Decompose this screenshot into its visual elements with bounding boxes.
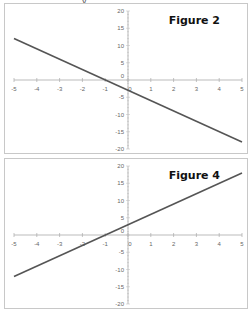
x-tick-label: 4 <box>218 86 222 92</box>
y-tick-label: 10 <box>117 43 124 49</box>
y-tick-label: -15 <box>115 129 124 135</box>
x-tick-label: 4 <box>218 241 222 247</box>
y-tick-label: 15 <box>117 25 124 31</box>
x-tick-label: 3 <box>195 241 199 247</box>
y-tick-label: -10 <box>115 112 124 118</box>
y-tick-label: 0 <box>121 228 125 234</box>
plot-area-figure-4: -5-4-3-2-101234520151050-5-10-15-20Figur… <box>5 159 249 310</box>
x-tick-label: 2 <box>172 86 176 92</box>
y-tick-label: -5 <box>119 249 125 255</box>
y-tick-label: 20 <box>117 8 124 14</box>
x-tick-label: 1 <box>149 241 153 247</box>
y-tick-label: -10 <box>115 267 124 273</box>
x-tick-label: -3 <box>57 241 63 247</box>
x-tick-label: 2 <box>172 241 176 247</box>
y-tick-label: 5 <box>121 215 125 221</box>
x-tick-label: -2 <box>80 86 86 92</box>
x-tick-label: -5 <box>11 86 17 92</box>
x-tick-label: -5 <box>11 241 17 247</box>
y-tick-label: 0 <box>121 73 125 79</box>
x-tick-label: -4 <box>34 86 40 92</box>
y-tick-label: -5 <box>119 94 125 100</box>
y-tick-label: 5 <box>121 60 125 66</box>
x-tick-label: -4 <box>34 241 40 247</box>
y-tick-label: 20 <box>117 163 124 169</box>
y-tick-label: 10 <box>117 198 124 204</box>
x-tick-label: 5 <box>240 86 244 92</box>
x-tick-label: -1 <box>103 241 109 247</box>
figure-title: Figure 4 <box>169 169 221 182</box>
chart-figure-4: -5-4-3-2-101234520151050-5-10-15-20Figur… <box>4 158 248 309</box>
x-tick-label: -1 <box>103 86 109 92</box>
x-tick-label: 1 <box>149 86 153 92</box>
figure-title: Figure 2 <box>169 14 220 27</box>
x-tick-label: 5 <box>240 241 244 247</box>
x-tick-label: 3 <box>195 86 199 92</box>
chart-figure-2: -5-4-3-2-101234520151050-5-10-15-20Figur… <box>4 3 248 154</box>
y-tick-label: 15 <box>117 180 124 186</box>
y-tick-label: -15 <box>115 284 124 290</box>
y-tick-label: -20 <box>115 146 124 152</box>
x-tick-label: -3 <box>57 86 63 92</box>
y-tick-label: -20 <box>115 301 124 307</box>
plot-area-figure-2: -5-4-3-2-101234520151050-5-10-15-20Figur… <box>5 4 249 155</box>
